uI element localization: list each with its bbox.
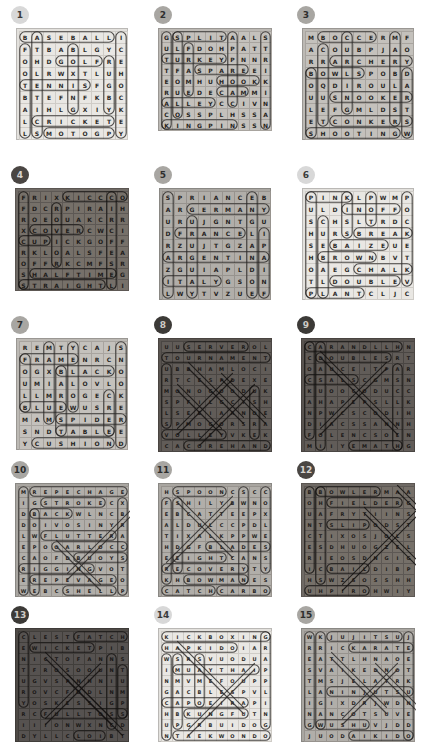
grid-letter-cell[interactable]: L — [326, 430, 337, 441]
grid-letter-cell[interactable]: M — [381, 487, 392, 498]
grid-letter-cell[interactable]: A — [227, 408, 238, 419]
grid-letter-cell[interactable]: O — [29, 698, 40, 709]
grid-letter-cell[interactable]: I — [106, 203, 117, 214]
grid-letter-cell[interactable]: V — [389, 252, 401, 264]
grid-letter-cell[interactable]: I — [194, 498, 205, 509]
grid-letter-cell[interactable]: A — [326, 665, 337, 676]
grid-letter-cell[interactable]: U — [161, 720, 172, 731]
grid-letter-cell[interactable]: L — [305, 104, 317, 116]
grid-letter-cell[interactable]: N — [62, 720, 73, 731]
grid-letter-cell[interactable]: U — [392, 632, 403, 643]
grid-letter-cell[interactable]: A — [205, 364, 216, 375]
grid-letter-cell[interactable]: N — [106, 665, 117, 676]
grid-letter-cell[interactable]: B — [353, 44, 365, 56]
grid-letter-cell[interactable]: S — [326, 520, 337, 531]
grid-letter-cell[interactable]: U — [43, 402, 55, 414]
grid-letter-cell[interactable]: K — [365, 116, 377, 128]
grid-letter-cell[interactable]: V — [249, 687, 260, 698]
grid-letter-cell[interactable]: C — [31, 116, 43, 128]
grid-letter-cell[interactable]: F — [73, 654, 84, 665]
grid-letter-cell[interactable]: C — [91, 366, 103, 378]
grid-letter-cell[interactable]: N — [260, 120, 271, 131]
grid-letter-cell[interactable]: U — [172, 54, 183, 65]
grid-letter-cell[interactable]: I — [260, 364, 271, 375]
grid-letter-cell[interactable]: P — [238, 687, 249, 698]
grid-letter-cell[interactable]: B — [79, 426, 91, 438]
grid-letter-cell[interactable]: O — [62, 520, 73, 531]
grid-letter-cell[interactable]: A — [172, 698, 183, 709]
grid-letter-cell[interactable]: O — [305, 80, 317, 92]
grid-letter-cell[interactable]: J — [304, 731, 315, 742]
grid-letter-cell[interactable]: G — [205, 386, 216, 397]
grid-letter-cell[interactable]: S — [238, 109, 249, 120]
grid-letter-cell[interactable]: A — [84, 575, 95, 586]
grid-letter-cell[interactable]: C — [401, 288, 413, 300]
grid-letter-cell[interactable]: T — [370, 364, 381, 375]
grid-letter-cell[interactable]: B — [183, 575, 194, 586]
grid-letter-cell[interactable]: R — [29, 487, 40, 498]
grid-letter-cell[interactable]: X — [51, 192, 62, 203]
grid-letter-cell[interactable]: W — [337, 487, 348, 498]
grid-letter-cell[interactable]: U — [258, 216, 270, 228]
grid-letter-cell[interactable]: F — [227, 709, 238, 720]
grid-letter-cell[interactable]: H — [403, 408, 414, 419]
grid-letter-cell[interactable]: A — [370, 676, 381, 687]
grid-letter-cell[interactable]: D — [337, 731, 348, 742]
grid-letter-cell[interactable]: D — [162, 228, 174, 240]
grid-letter-cell[interactable]: J — [381, 720, 392, 731]
grid-letter-cell[interactable]: M — [183, 419, 194, 430]
grid-letter-cell[interactable]: T — [216, 665, 227, 676]
grid-letter-cell[interactable]: U — [341, 44, 353, 56]
grid-letter-cell[interactable]: L — [249, 32, 260, 43]
grid-letter-cell[interactable]: T — [249, 709, 260, 720]
grid-letter-cell[interactable]: I — [117, 225, 128, 236]
grid-letter-cell[interactable]: P — [172, 419, 183, 430]
grid-letter-cell[interactable]: S — [183, 109, 194, 120]
grid-letter-cell[interactable]: Y — [216, 498, 227, 509]
grid-letter-cell[interactable]: N — [55, 80, 67, 92]
grid-letter-cell[interactable]: R — [106, 531, 117, 542]
grid-letter-cell[interactable]: E — [103, 414, 115, 426]
grid-letter-cell[interactable]: F — [19, 354, 31, 366]
grid-letter-cell[interactable]: C — [183, 632, 194, 643]
grid-letter-cell[interactable]: S — [348, 575, 359, 586]
grid-letter-cell[interactable]: E — [205, 698, 216, 709]
grid-letter-cell[interactable]: T — [51, 498, 62, 509]
grid-letter-cell[interactable]: C — [227, 553, 238, 564]
grid-letter-cell[interactable]: O — [194, 487, 205, 498]
grid-letter-cell[interactable]: W — [304, 632, 315, 643]
grid-letter-cell[interactable]: M — [117, 687, 128, 698]
grid-letter-cell[interactable]: O — [370, 520, 381, 531]
grid-letter-cell[interactable]: A — [337, 564, 348, 575]
grid-letter-cell[interactable]: D — [194, 87, 205, 98]
grid-letter-cell[interactable]: A — [172, 687, 183, 698]
grid-letter-cell[interactable]: C — [260, 487, 271, 498]
grid-letter-cell[interactable]: F — [304, 430, 315, 441]
grid-letter-cell[interactable]: R — [19, 342, 31, 354]
grid-letter-cell[interactable]: N — [353, 204, 365, 216]
grid-letter-cell[interactable]: B — [103, 92, 115, 104]
grid-letter-cell[interactable]: U — [84, 553, 95, 564]
grid-letter-cell[interactable]: U — [29, 236, 40, 247]
grid-letter-cell[interactable]: A — [161, 98, 172, 109]
grid-letter-cell[interactable]: A — [305, 44, 317, 56]
grid-letter-cell[interactable]: R — [238, 342, 249, 353]
grid-letter-cell[interactable]: S — [403, 509, 414, 520]
grid-letter-cell[interactable]: I — [326, 698, 337, 709]
grid-letter-cell[interactable]: S — [18, 280, 29, 291]
grid-letter-cell[interactable]: V — [95, 564, 106, 575]
grid-letter-cell[interactable]: W — [329, 68, 341, 80]
grid-letter-cell[interactable]: O — [401, 204, 413, 216]
grid-letter-cell[interactable]: N — [370, 553, 381, 564]
grid-letter-cell[interactable]: K — [183, 709, 194, 720]
grid-letter-cell[interactable]: T — [359, 509, 370, 520]
grid-letter-cell[interactable]: S — [73, 520, 84, 531]
grid-letter-cell[interactable]: W — [353, 252, 365, 264]
grid-letter-cell[interactable]: C — [161, 698, 172, 709]
grid-letter-cell[interactable]: U — [162, 216, 174, 228]
grid-letter-cell[interactable]: H — [348, 720, 359, 731]
grid-letter-cell[interactable]: E — [106, 575, 117, 586]
grid-letter-cell[interactable]: H — [315, 586, 326, 597]
grid-letter-cell[interactable]: L — [246, 228, 258, 240]
grid-letter-cell[interactable]: L — [106, 280, 117, 291]
